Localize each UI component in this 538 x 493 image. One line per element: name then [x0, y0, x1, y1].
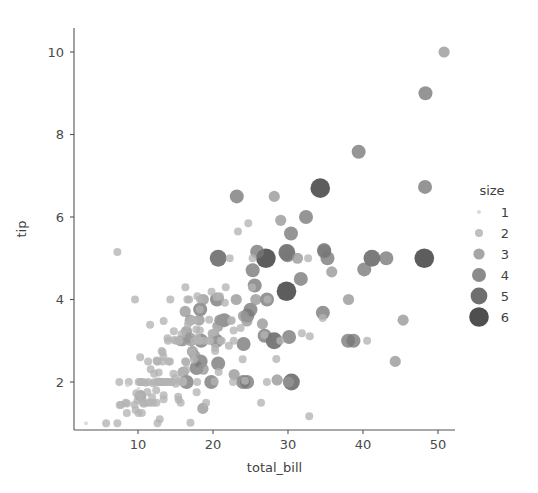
y-tick-label: 6 [56, 210, 64, 225]
data-point [84, 421, 88, 425]
data-point [115, 378, 123, 386]
data-point [352, 145, 366, 159]
data-point [418, 86, 432, 100]
data-point [196, 296, 204, 304]
data-point [190, 337, 198, 345]
data-point [168, 378, 176, 386]
data-point [244, 219, 252, 227]
data-point [113, 419, 121, 427]
data-point [264, 296, 272, 304]
data-point [272, 374, 283, 385]
data-point [196, 326, 204, 334]
data-point [136, 353, 144, 361]
data-point [230, 189, 244, 203]
data-point [317, 244, 331, 258]
data-point [398, 315, 409, 326]
data-point [131, 296, 139, 304]
x-axis-label: total_bill [247, 460, 302, 475]
data-point [193, 388, 201, 396]
data-point [200, 337, 208, 345]
data-point [137, 387, 141, 391]
scatter-plot: 1020304050 246810 total_bill tip size 12… [0, 0, 538, 493]
data-point [193, 378, 201, 386]
legend-title: size [479, 183, 504, 198]
data-point [175, 377, 183, 385]
data-point [182, 366, 190, 374]
y-axis-label: tip [14, 221, 29, 238]
data-point [418, 180, 432, 194]
data-point [277, 281, 297, 301]
data-point [217, 337, 225, 345]
data-point [150, 370, 158, 378]
legend-label: 1 [501, 205, 509, 220]
data-point [346, 334, 360, 348]
data-point [248, 284, 256, 292]
data-point [237, 337, 251, 351]
legend-marker [471, 288, 488, 305]
x-tick-label: 10 [130, 437, 147, 452]
data-point [123, 409, 131, 417]
data-point [211, 378, 219, 386]
data-point [438, 46, 449, 57]
data-point [390, 356, 401, 367]
x-tick-label: 30 [280, 437, 297, 452]
data-point [102, 419, 110, 427]
data-point [306, 332, 314, 340]
y-tick-label: 8 [56, 127, 64, 142]
data-point [298, 329, 306, 337]
data-point [186, 419, 194, 427]
data-point [282, 330, 296, 344]
data-point [113, 248, 121, 256]
data-point [177, 399, 185, 407]
legend-label: 5 [501, 289, 509, 304]
data-point [175, 337, 183, 345]
data-point [210, 250, 227, 267]
data-point [152, 386, 160, 394]
data-point [294, 272, 308, 286]
y-tick-label: 4 [56, 292, 64, 307]
data-point [292, 253, 303, 264]
data-point [169, 370, 177, 378]
x-tick-label: 50 [430, 437, 447, 452]
data-point [257, 318, 268, 329]
data-point [198, 364, 209, 375]
data-point [214, 315, 225, 326]
data-point [125, 383, 129, 387]
legend-marker [472, 268, 486, 282]
data-point [222, 283, 230, 291]
data-point [202, 399, 210, 407]
data-point [183, 296, 191, 304]
data-point [196, 305, 204, 313]
data-point [275, 215, 286, 226]
plot-background [0, 0, 538, 493]
data-point [363, 337, 371, 345]
data-point [159, 348, 167, 356]
legend-label: 4 [501, 268, 509, 283]
data-point [326, 266, 337, 277]
data-point [160, 317, 168, 325]
data-point [208, 288, 216, 296]
data-point [170, 327, 178, 335]
data-point [229, 378, 237, 386]
data-point [284, 227, 298, 241]
data-point [357, 262, 371, 276]
data-point [414, 248, 434, 268]
data-point [263, 378, 271, 386]
data-point [269, 191, 280, 202]
legend-marker [475, 229, 483, 237]
figure-canvas: 1020304050 246810 total_bill tip size 12… [0, 0, 538, 493]
data-point [379, 251, 393, 265]
data-point [299, 210, 313, 224]
legend-marker [469, 307, 489, 327]
legend-marker [473, 248, 484, 259]
data-point [227, 317, 235, 325]
data-point [146, 321, 154, 329]
data-point [276, 337, 284, 345]
data-point [181, 357, 189, 365]
data-point [260, 331, 268, 339]
legend-label: 3 [501, 247, 509, 262]
data-point [272, 355, 280, 363]
data-point [154, 419, 162, 427]
data-point [190, 356, 198, 364]
data-point [234, 227, 242, 235]
